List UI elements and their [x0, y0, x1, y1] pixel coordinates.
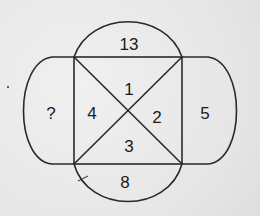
- puzzle-figure: [0, 0, 260, 216]
- bottom-arc-value: 8: [120, 174, 129, 191]
- triangle-right-value: 2: [152, 109, 161, 126]
- speck: [7, 86, 9, 88]
- right-lobe-value: 5: [200, 105, 209, 122]
- left-lobe-value: ?: [46, 105, 55, 122]
- paper-background: 13 8 ? 5 1 2 3 4: [0, 0, 260, 216]
- triangle-top-value: 1: [124, 81, 133, 98]
- triangle-left-value: 4: [87, 105, 96, 122]
- top-arc-value: 13: [120, 36, 139, 53]
- triangle-bottom-value: 3: [124, 138, 133, 155]
